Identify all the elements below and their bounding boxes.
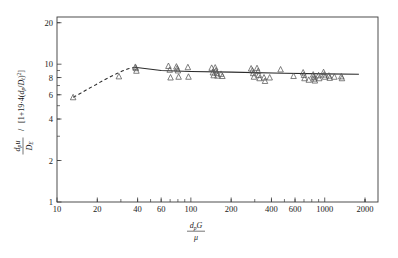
y-tick-label: 6: [49, 90, 53, 100]
x-tick-label: 1000: [316, 204, 333, 214]
x-tick-label: 40: [133, 204, 142, 214]
y-tick-label: 10: [45, 59, 54, 69]
data-point-marker: [186, 74, 192, 79]
svg-text:[1+19·4(dp/Dt)2]: [1+19·4(dp/Dt)2]: [16, 70, 26, 123]
data-point-marker: [185, 64, 191, 69]
x-axis-ticks: [57, 198, 365, 203]
y-axis-title: dpu DE / [1+19·4(dp/Dt)2]: [13, 70, 34, 155]
svg-text:dpG: dpG: [190, 221, 203, 231]
y-tick-label: 20: [45, 18, 54, 28]
svg-text:dpu: dpu: [13, 141, 23, 152]
figure-container: 1020406010020040060010002000 124681020 d…: [0, 0, 398, 258]
svg-text:DE: DE: [25, 141, 35, 152]
data-point-marker: [220, 73, 226, 78]
data-point-marker: [278, 67, 284, 72]
x-tick-label: 60: [157, 204, 166, 214]
x-tick-label: 100: [184, 204, 197, 214]
svg-text:/: /: [17, 128, 26, 131]
y-tick-label: 8: [49, 73, 53, 83]
x-tick-label: 600: [289, 204, 302, 214]
x-tick-label: 400: [265, 204, 278, 214]
x-tick-label: 200: [225, 204, 238, 214]
x-tick-label: 2000: [357, 204, 374, 214]
plot-frame: [57, 17, 378, 202]
data-point-marker: [262, 78, 268, 83]
data-point-marker: [332, 74, 338, 79]
svg-text:μ: μ: [193, 233, 198, 242]
y-axis-tick-labels: 124681020: [45, 18, 54, 207]
data-point-marker: [176, 74, 182, 79]
data-point-marker: [116, 73, 122, 78]
x-axis-tick-labels: 1020406010020040060010002000: [53, 204, 374, 214]
data-point-marker: [251, 74, 257, 79]
y-tick-label: 4: [49, 114, 54, 124]
x-tick-label: 20: [93, 204, 102, 214]
data-point-marker: [168, 75, 174, 80]
y-tick-label: 2: [49, 156, 53, 166]
y-tick-label: 1: [49, 197, 53, 207]
y-axis-ticks: [57, 23, 62, 202]
chart-svg: 1020406010020040060010002000 124681020 d…: [0, 0, 398, 258]
x-tick-label: 10: [53, 204, 62, 214]
x-axis-title: dpG μ: [187, 221, 205, 242]
data-markers: [70, 63, 344, 100]
dashed-trend-curve: [73, 67, 134, 97]
data-point-marker: [267, 75, 273, 80]
data-point-marker: [167, 67, 173, 72]
